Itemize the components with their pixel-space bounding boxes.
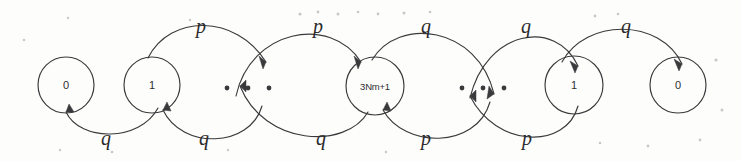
edge-label-q: q: [421, 15, 431, 38]
edge-label-p: p: [419, 127, 431, 150]
node-label: 1: [571, 79, 577, 91]
node-label: 1: [149, 79, 155, 91]
node-label: 0: [675, 79, 681, 91]
transition-ellipsisR-to-1R: [470, 37, 578, 98]
edge-label-p: p: [520, 127, 532, 150]
transition-center-to-ellipsisL: [240, 80, 368, 137]
node-0-left[interactable]: 0: [38, 57, 94, 113]
edge-label-p: p: [194, 15, 206, 38]
transition-center-to-ellipsisR: [372, 33, 494, 99]
edge-label-q: q: [101, 127, 111, 150]
transition-ellipsisR-to-center: [383, 102, 490, 138]
node-1-left[interactable]: 1: [124, 57, 180, 113]
diagram-canvas: 0 1 3Nm+1 1 0 p: [0, 0, 741, 161]
edge-label-q: q: [621, 15, 631, 38]
transition-1L-to-ellipsisL: [148, 25, 266, 69]
state-diagram-svg: 0 1 3Nm+1 1 0 p: [0, 0, 741, 161]
edge-label-q: q: [199, 127, 209, 150]
ellipsis-right: [460, 86, 507, 91]
node-label: 3Nm+1: [360, 81, 390, 92]
transition-ellipsisL-to-1L: [163, 102, 262, 139]
ellipsis-left: [225, 86, 272, 91]
node-label: 0: [63, 79, 69, 91]
transition-1L-to-0L: [66, 104, 158, 134]
edge-label-q: q: [316, 127, 326, 150]
edge-label-p: p: [311, 15, 323, 38]
transition-ellipsisL-to-center: [236, 34, 361, 96]
edge-label-q: q: [521, 15, 531, 38]
node-3nm1-center[interactable]: 3Nm+1: [346, 57, 404, 115]
